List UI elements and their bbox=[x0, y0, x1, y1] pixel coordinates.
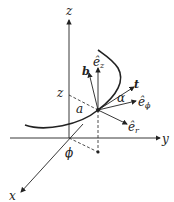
projection-line-base bbox=[69, 138, 98, 152]
e-phi-label: êϕ bbox=[138, 95, 151, 110]
z-height-label: z bbox=[56, 86, 64, 100]
x-axis-label: x bbox=[9, 189, 16, 202]
vector-b bbox=[89, 73, 98, 110]
t-label: t bbox=[134, 78, 139, 91]
projection-line-z bbox=[69, 95, 98, 110]
vector-e-r bbox=[98, 110, 127, 124]
b-label: b bbox=[82, 65, 90, 78]
y-axis-label: y bbox=[161, 132, 169, 146]
e-z-label: êz bbox=[93, 55, 105, 70]
helix-frame-diagram: z y x z a ϕ α b t êz êϕ êr bbox=[0, 0, 174, 202]
x-axis bbox=[21, 124, 83, 192]
helix-curve bbox=[25, 50, 121, 128]
e-r-label: êr bbox=[128, 120, 140, 135]
base-point bbox=[96, 150, 99, 153]
alpha-label: α bbox=[117, 91, 125, 105]
phi-label: ϕ bbox=[65, 146, 73, 160]
radius-label: a bbox=[76, 102, 83, 116]
z-axis-label: z bbox=[65, 4, 73, 18]
